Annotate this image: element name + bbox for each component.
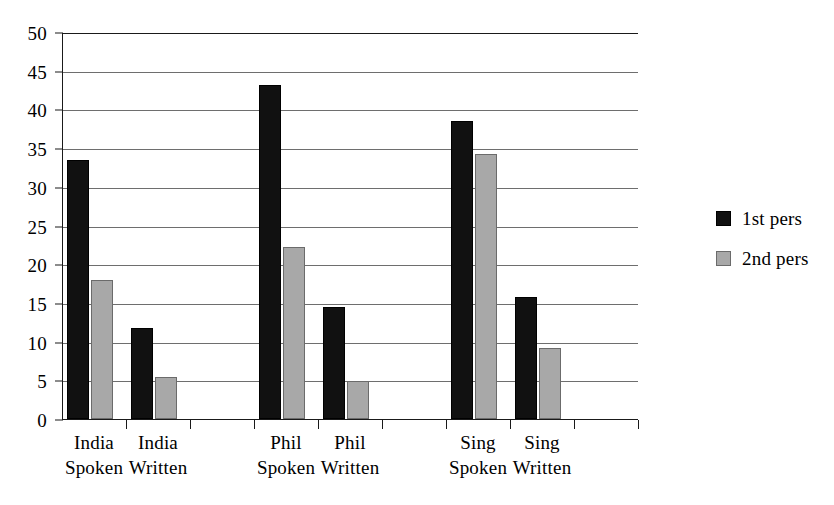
x-axis-tick-label: SingSpoken — [446, 430, 510, 480]
x-axis-tick-label-line: Spoken — [446, 455, 510, 480]
x-axis-tick-mark — [190, 420, 191, 429]
x-axis-tick-mark — [126, 420, 127, 429]
x-axis-tick-label: IndiaSpoken — [62, 430, 126, 480]
x-axis-tick-label: PhilWritten — [318, 430, 382, 480]
bar — [475, 154, 497, 419]
x-axis-tick-label: SingWritten — [510, 430, 574, 480]
x-axis-tick-mark — [382, 420, 383, 429]
x-axis-tick-mark — [638, 420, 639, 429]
gridline — [63, 265, 638, 266]
x-axis-tick-label-line: Written — [510, 455, 574, 480]
x-axis-tick-mark — [446, 420, 447, 429]
bar — [451, 121, 473, 419]
legend-item: 1st pers — [716, 198, 834, 238]
x-axis-tick-label-line: India — [62, 430, 126, 455]
x-axis-tick-mark — [254, 420, 255, 429]
gridline — [63, 110, 638, 111]
gridline — [63, 72, 638, 73]
x-axis-tick-label: IndiaWritten — [126, 430, 190, 480]
x-axis-tick-label-line: India — [126, 430, 190, 455]
gridline — [63, 33, 638, 34]
gridline — [63, 304, 638, 305]
bar — [91, 280, 113, 419]
plot-area — [62, 33, 638, 420]
chart-legend: 1st pers2nd pers — [716, 198, 834, 278]
bar — [323, 307, 345, 419]
legend-label: 2nd pers — [742, 249, 809, 268]
x-axis-labels: IndiaSpokenIndiaWrittenPhilSpokenPhilWri… — [62, 430, 638, 492]
bar — [131, 328, 153, 419]
bar — [67, 160, 89, 419]
x-axis-tick-label-line: Sing — [510, 430, 574, 455]
x-axis-tick-label-line: Sing — [446, 430, 510, 455]
x-axis-tick-label-line: Written — [318, 455, 382, 480]
x-axis-tick-label-line: Spoken — [254, 455, 318, 480]
bar — [539, 348, 561, 419]
bar — [515, 297, 537, 419]
y-axis-ticks — [0, 33, 63, 420]
bar — [283, 247, 305, 419]
legend-label: 1st pers — [742, 209, 802, 228]
x-axis-tick-label-line: Spoken — [62, 455, 126, 480]
x-axis-tick-label-line: Phil — [318, 430, 382, 455]
bar — [259, 85, 281, 419]
legend-color-swatch — [716, 251, 731, 266]
x-axis-tick-label-line: Phil — [254, 430, 318, 455]
gridline — [63, 149, 638, 150]
gridline — [63, 188, 638, 189]
bar — [347, 381, 369, 419]
legend-item: 2nd pers — [716, 238, 834, 278]
x-axis-tick-mark — [510, 420, 511, 429]
bar-chart: 05101520253035404550 IndiaSpokenIndiaWri… — [0, 0, 834, 505]
x-axis-ticks — [62, 420, 638, 430]
x-axis-tick-mark — [318, 420, 319, 429]
bar — [155, 377, 177, 419]
x-axis-tick-mark — [574, 420, 575, 429]
gridline — [63, 227, 638, 228]
legend-color-swatch — [716, 211, 731, 226]
x-axis-tick-label-line: Written — [126, 455, 190, 480]
x-axis-tick-label: PhilSpoken — [254, 430, 318, 480]
